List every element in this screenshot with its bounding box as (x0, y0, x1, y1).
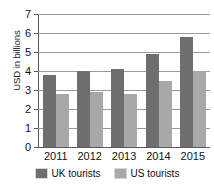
x-axis-ticks: 20112012201320142015 (39, 150, 210, 162)
x-axis-line (38, 147, 210, 148)
y-tick-mark (34, 90, 38, 91)
y-tick-label: 6 (25, 28, 31, 39)
bar-us-2013 (124, 94, 137, 147)
y-tick-mark (34, 109, 38, 110)
y-tick-label: 1 (25, 123, 31, 134)
legend-swatch-us (114, 168, 127, 179)
y-tick-mark (34, 14, 38, 15)
legend-item-us[interactable]: US tourists (114, 168, 180, 179)
y-tick-mark (34, 71, 38, 72)
legend-item-uk[interactable]: UK tourists (35, 168, 101, 179)
bar-us-2011 (56, 94, 69, 147)
x-tick-label-2013: 2013 (112, 150, 136, 162)
legend-label: UK tourists (52, 168, 101, 179)
bar-uk-2012 (77, 71, 90, 147)
bar-group-2011 (43, 14, 69, 147)
bar-group-2015 (180, 14, 206, 147)
bar-uk-2011 (43, 75, 56, 147)
y-tick-mark (34, 128, 38, 129)
bar-group-2014 (146, 14, 172, 147)
y-tick-mark (34, 52, 38, 53)
y-tick-label: 3 (25, 85, 31, 96)
bars-container (39, 14, 210, 147)
y-tick-label: 5 (25, 47, 31, 58)
bar-uk-2013 (111, 69, 124, 147)
bar-group-2012 (77, 14, 103, 147)
chart-legend: UK touristsUS tourists (0, 168, 214, 179)
bar-uk-2014 (146, 54, 159, 147)
y-tick-label: 7 (25, 9, 31, 20)
x-tick-label-2011: 2011 (44, 150, 68, 162)
x-tick-label-2015: 2015 (181, 150, 205, 162)
bar-us-2014 (159, 81, 172, 148)
bar-group-2013 (111, 14, 137, 147)
y-tick-label: 4 (25, 66, 31, 77)
bar-uk-2015 (180, 37, 193, 147)
bar-chart-figure: USD in billions 01234567 201120122013201… (0, 0, 214, 188)
legend-swatch-uk (35, 168, 48, 179)
plot-area: 01234567 (38, 14, 210, 147)
x-tick-label-2014: 2014 (146, 150, 170, 162)
y-tick-label: 2 (25, 104, 31, 115)
legend-label: US tourists (131, 168, 180, 179)
y-axis-title: USD in billions (11, 1, 22, 121)
y-tick-label: 0 (25, 142, 31, 153)
x-tick-label-2012: 2012 (77, 150, 101, 162)
y-tick-mark (34, 33, 38, 34)
bar-us-2015 (193, 71, 206, 147)
bar-us-2012 (90, 92, 103, 147)
